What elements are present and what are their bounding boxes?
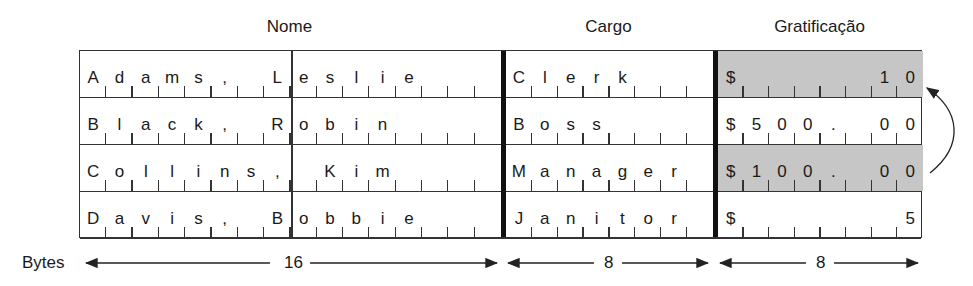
swap-arrow-icon <box>927 88 954 173</box>
arrows-overlay <box>0 0 973 286</box>
